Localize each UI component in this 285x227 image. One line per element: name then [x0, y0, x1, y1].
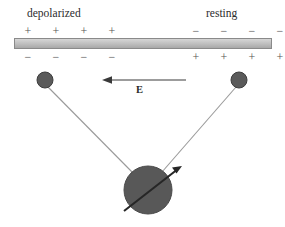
membrane-dipole-diagram: depolarized resting + + + + − − − − − − …: [0, 0, 285, 227]
lead-left: [48, 87, 134, 174]
lead-right: [162, 87, 236, 172]
diagram-vector-layer: [0, 0, 285, 227]
dipole-circle: [124, 166, 172, 214]
electrode-left: [37, 72, 53, 88]
electrode-right: [231, 72, 247, 88]
field-arrow-head: [102, 76, 112, 84]
